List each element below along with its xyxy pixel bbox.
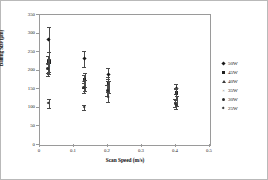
y-tick-label: 200 — [19, 67, 35, 72]
y-tick-label: 150 — [19, 86, 35, 91]
legend-item-50w[interactable]: 50W — [220, 59, 264, 68]
data-point-triangle — [174, 92, 178, 95]
data-point-diamond — [82, 57, 86, 61]
data-point-small-diamond — [83, 106, 86, 109]
x-tick-mark — [209, 144, 210, 147]
data-point-circle — [82, 86, 85, 89]
legend-item-35w[interactable]: ×35W — [220, 86, 264, 95]
y-tick-label: 250 — [19, 49, 35, 54]
error-bar-cap — [106, 79, 110, 80]
error-bar-cap — [106, 102, 110, 103]
data-point-small-diamond — [106, 95, 109, 98]
legend-label: 25W — [228, 106, 238, 112]
data-point-square — [222, 71, 225, 74]
data-point-small-diamond — [222, 107, 225, 110]
legend-marker-square-icon — [220, 68, 227, 77]
legend-label: 45W — [228, 70, 238, 76]
y-tick-mark — [36, 70, 39, 71]
data-point-diamond — [46, 37, 50, 41]
error-bar-cap — [47, 52, 51, 53]
error-bar-cap — [83, 80, 87, 81]
legend-label: 40W — [228, 79, 238, 85]
error-bar-cap — [174, 102, 178, 103]
legend-item-30w[interactable]: 30W — [220, 95, 264, 104]
data-point-triangle — [222, 80, 226, 83]
x-axis-title: Scan Speed (m/s) — [39, 157, 211, 163]
x-tick-label: 0.3 — [131, 148, 151, 153]
y-tick-label: 300 — [19, 30, 35, 35]
y-axis-title: Balling Size (μm) — [0, 3, 4, 93]
plot-frame: ×××× — [39, 14, 211, 146]
error-bar-cap — [82, 75, 86, 76]
data-point-diamond — [221, 61, 225, 65]
error-bar-cap — [47, 99, 51, 100]
x-tick-label: 0.5 — [199, 148, 219, 153]
x-tick-label: 0.2 — [97, 148, 117, 153]
error-bar-cap — [82, 83, 86, 84]
legend-item-45w[interactable]: 45W — [220, 68, 264, 77]
y-tick-mark — [36, 88, 39, 89]
legend-label: 30W — [228, 97, 238, 103]
error-bar-cap — [82, 67, 86, 68]
x-tick-mark — [175, 144, 176, 147]
error-bar-cap — [46, 76, 50, 77]
x-tick-mark — [39, 144, 40, 147]
data-point-circle — [106, 89, 109, 92]
x-tick-mark — [73, 144, 74, 147]
error-bar-cap — [47, 59, 51, 60]
error-bar-cap — [83, 73, 87, 74]
x-tick-mark — [107, 144, 108, 147]
y-tick-mark — [36, 14, 39, 15]
figure-container: Balling Size (μm) ×××× Scan Speed (m/s) … — [0, 0, 268, 180]
error-bar-cap — [47, 27, 51, 28]
chart-legend: 50W45W40W×35W30W25W — [220, 59, 264, 113]
data-point-circle — [222, 98, 225, 101]
legend-marker-cross-icon: × — [220, 86, 227, 95]
y-tick-label: 350 — [19, 12, 35, 17]
legend-marker-triangle-icon — [220, 77, 227, 86]
x-tick-label: 0 — [29, 148, 49, 153]
y-tick-mark — [36, 51, 39, 52]
error-bar-cap — [82, 93, 86, 94]
data-point-diamond — [106, 72, 110, 76]
error-bar-cap — [106, 92, 110, 93]
legend-item-40w[interactable]: 40W — [220, 77, 264, 86]
data-point-cross: × — [222, 89, 226, 93]
y-tick-label: 0 — [19, 142, 35, 147]
plot-area: ×××× — [40, 15, 210, 145]
error-bar-cap — [47, 108, 51, 109]
y-tick-mark — [36, 125, 39, 126]
error-bar-cap — [106, 68, 110, 69]
error-bar-cap — [105, 85, 109, 86]
y-tick-label: 100 — [19, 104, 35, 109]
error-bar-cap — [174, 109, 178, 110]
error-bar-cap — [174, 89, 178, 90]
y-tick-mark — [36, 33, 39, 34]
error-bar-cap — [46, 56, 50, 57]
error-bar-cap — [173, 99, 177, 100]
error-bar-cap — [82, 110, 86, 111]
error-bar-cap — [46, 63, 50, 64]
legend-item-25w[interactable]: 25W — [220, 104, 264, 113]
x-tick-label: 0.1 — [63, 148, 83, 153]
legend-marker-diamond-icon — [220, 59, 227, 68]
x-tick-mark — [141, 144, 142, 147]
legend-label: 50W — [228, 61, 238, 67]
x-tick-label: 0.4 — [165, 148, 185, 153]
error-bar-cap — [82, 51, 86, 52]
y-tick-mark — [36, 107, 39, 108]
legend-marker-circle-icon — [220, 95, 227, 104]
legend-label: 35W — [228, 88, 238, 94]
y-tick-label: 50 — [19, 123, 35, 128]
legend-marker-small-diamond-icon — [220, 104, 227, 113]
error-bar-cap — [107, 81, 111, 82]
